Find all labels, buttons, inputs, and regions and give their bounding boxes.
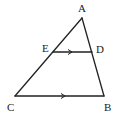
label-E: E [42, 42, 49, 54]
triangle-diagram: A B C D E [0, 0, 120, 118]
label-A: A [78, 2, 86, 14]
segment-AB [82, 18, 104, 96]
label-C: C [7, 101, 14, 113]
label-B: B [104, 101, 111, 113]
segment-AC [15, 18, 82, 96]
label-D: D [96, 43, 104, 55]
